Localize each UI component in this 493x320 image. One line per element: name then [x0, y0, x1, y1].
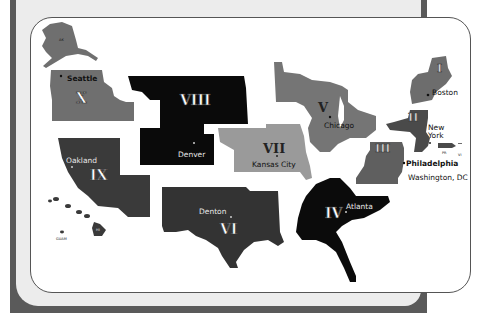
region-vii[interactable]: Kansas City VII: [218, 124, 312, 180]
city-label-seattle: Seattle: [67, 74, 97, 83]
denver-marker: [193, 142, 195, 144]
region-numeral-ii: II: [408, 111, 418, 124]
city-label-denton: Denton: [199, 207, 227, 216]
region-vi[interactable]: Denton VI: [162, 187, 284, 268]
city-label-new-york-line2: York: [427, 131, 444, 140]
city-label-chicago: Chicago: [324, 121, 355, 130]
epa-regions-map: AK Seattle X Denver VIII Oakland IX HI G…: [0, 0, 493, 320]
region-x[interactable]: Seattle X: [50, 70, 134, 121]
region-numeral-vi: VI: [219, 221, 237, 237]
region-numeral-v: V: [317, 100, 329, 115]
boston-marker: [427, 94, 430, 97]
hawaii-label: HI: [96, 228, 100, 232]
new-york-marker: [429, 142, 431, 144]
region-numeral-iv: IV: [325, 205, 344, 221]
puerto-rico-label: PR: [442, 151, 447, 155]
territory-guam[interactable]: GUAM: [56, 231, 67, 241]
seattle-marker: [60, 75, 62, 77]
region-numeral-i: I: [437, 62, 442, 75]
city-label-kansas-city: Kansas City: [252, 160, 296, 169]
city-label-denver: Denver: [178, 150, 206, 159]
city-label-philadelphia: Philadelphia: [406, 159, 458, 168]
region-numeral-viii: VIII: [179, 92, 211, 108]
city-label-washington-dc: Washington, DC: [408, 173, 468, 182]
philadelphia-marker: [403, 162, 405, 164]
region-iii[interactable]: Philadelphia Washington, DC III: [356, 142, 468, 184]
region-numeral-ix: IX: [90, 167, 108, 183]
territory-puerto-rico[interactable]: PR: [438, 143, 456, 155]
city-label-boston: Boston: [432, 88, 458, 97]
denton-marker: [230, 216, 232, 218]
alaska-label: AK: [59, 38, 64, 42]
region-numeral-vii: VII: [262, 141, 285, 156]
region-ix[interactable]: Oakland IX: [58, 138, 150, 217]
city-label-oakland: Oakland: [66, 156, 97, 165]
chicago-marker: [329, 116, 331, 118]
region-numeral-x: X: [76, 90, 87, 106]
territory-virgin-islands[interactable]: VI: [458, 143, 462, 157]
region-numeral-iii: III: [375, 142, 390, 155]
region-i[interactable]: Boston I: [410, 56, 458, 104]
region-viii[interactable]: Denver VIII: [128, 76, 248, 165]
oakland-marker: [71, 166, 73, 168]
region-iv[interactable]: Atlanta IV: [296, 178, 390, 282]
virgin-islands-label: VI: [458, 153, 461, 157]
atlanta-marker: [345, 211, 347, 213]
territory-alaska[interactable]: AK: [42, 22, 98, 68]
city-label-atlanta: Atlanta: [346, 202, 373, 211]
guam-label: GUAM: [56, 237, 67, 241]
